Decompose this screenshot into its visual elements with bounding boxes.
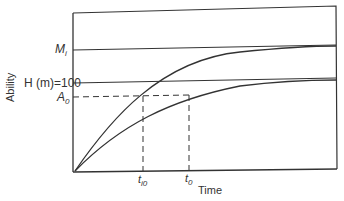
a0-main: A (57, 90, 65, 104)
h100-text: H (m)=100 (24, 76, 81, 90)
a0-sub: 0 (65, 97, 69, 106)
lower-curve (75, 80, 336, 171)
upper-curve (75, 46, 336, 171)
mi-sub: i (65, 49, 67, 58)
x-axis-label: Time (198, 184, 222, 196)
a0-dashed-line (73, 95, 189, 97)
ti0-label: ti0 (138, 173, 147, 188)
t0-sub: 0 (188, 178, 192, 187)
t0-label: t0 (185, 172, 193, 187)
ti0-sub: i0 (141, 179, 147, 188)
mi-label: Mi (55, 42, 67, 58)
y-axis-label: Ability (4, 73, 16, 102)
x-axis (73, 169, 337, 172)
ability-text: Ability (4, 73, 16, 102)
mi-main: M (55, 42, 65, 56)
ability-time-diagram (0, 0, 344, 201)
a0-label: A0 (57, 90, 69, 106)
time-text: Time (198, 184, 222, 196)
axes-frame (73, 6, 337, 169)
h100-label: H (m)=100 (24, 76, 81, 90)
